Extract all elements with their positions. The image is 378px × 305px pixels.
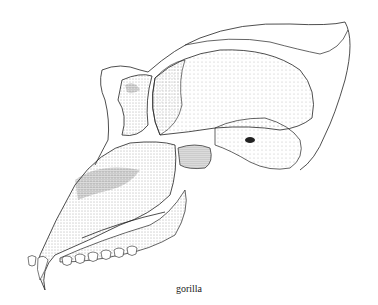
crest-inner [185, 30, 348, 54]
orbit [118, 75, 152, 136]
ear-opening [245, 137, 255, 143]
tooth [127, 246, 137, 256]
tooth [114, 248, 124, 258]
tooth [101, 250, 111, 260]
maxilla [38, 142, 175, 290]
skull-illustration [0, 0, 378, 305]
tooth [28, 256, 36, 267]
figure-caption: gorilla [0, 283, 378, 294]
tooth [62, 256, 72, 266]
tooth [88, 252, 98, 262]
zygomatic-patch [178, 145, 211, 169]
tooth [75, 254, 85, 264]
brow-outline [95, 70, 109, 165]
